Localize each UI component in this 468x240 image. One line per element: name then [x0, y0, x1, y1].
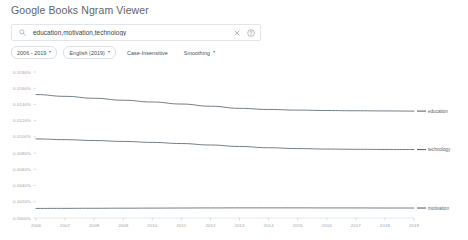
chip-date-range[interactable]: 2006 - 2019 ▾: [11, 46, 57, 59]
y-tick-label: 0.0080%: [13, 151, 31, 156]
x-tick-label: 2013: [234, 223, 245, 228]
y-tick-label: 0.0140%: [13, 102, 31, 107]
x-tick-label: 2006: [31, 223, 42, 228]
y-tick-label: 0.0040%: [13, 183, 31, 188]
series-line-technology[interactable]: [36, 139, 414, 150]
x-axis: 2006200720082009201020112012201320142015…: [31, 218, 420, 228]
chip-date-range-label: 2006 - 2019: [17, 50, 46, 56]
x-tick-label: 2016: [322, 223, 333, 228]
x-tick-label: 2009: [118, 223, 129, 228]
ngram-viewer-app: Google Books Ngram Viewer 200: [0, 0, 468, 240]
x-tick-label: 2014: [264, 223, 275, 228]
x-tick-label: 2011: [176, 223, 186, 228]
chip-smoothing[interactable]: Smoothing ▾: [179, 46, 220, 59]
search-icon: [15, 29, 29, 36]
x-tick-label: 2007: [60, 223, 71, 228]
series-label-education[interactable]: education: [428, 109, 448, 114]
chip-smoothing-label: Smoothing: [184, 50, 210, 56]
series-line-motivation[interactable]: [36, 208, 414, 209]
y-tick-label: 0.0120%: [13, 118, 31, 123]
chevron-down-icon: ▾: [49, 50, 51, 54]
x-tick-label: 2008: [89, 223, 100, 228]
series-line-education[interactable]: [36, 95, 414, 112]
y-tick-label: 0.0180%: [13, 70, 31, 75]
chevron-down-icon: ▾: [213, 50, 215, 54]
plot-lines: [36, 95, 414, 209]
y-tick-label: 0.0060%: [13, 167, 31, 172]
series-legend: educationtechnologymotivation: [417, 109, 451, 211]
search-bar[interactable]: [11, 24, 261, 41]
chart-svg: 0.0000%0.0020%0.0040%0.0060%0.0080%0.010…: [0, 66, 468, 240]
filter-chip-row: 2006 - 2019 ▾ English (2019) ▾ Case-Inse…: [11, 46, 220, 59]
search-input[interactable]: [29, 25, 230, 40]
series-label-technology[interactable]: technology: [428, 147, 451, 152]
chip-case-insensitive-label: Case-Insensitive: [127, 50, 168, 56]
y-axis: 0.0000%0.0020%0.0040%0.0060%0.0080%0.010…: [13, 70, 36, 221]
ngram-chart[interactable]: 0.0000%0.0020%0.0040%0.0060%0.0080%0.010…: [0, 66, 468, 240]
chip-case-insensitive[interactable]: Case-Insensitive: [122, 46, 173, 59]
y-tick-label: 0.0160%: [13, 86, 31, 91]
x-tick-label: 2019: [409, 223, 420, 228]
chevron-down-icon: ▾: [108, 50, 110, 54]
close-icon[interactable]: [230, 30, 243, 36]
series-label-motivation[interactable]: motivation: [428, 206, 449, 211]
y-tick-label: 0.0100%: [13, 134, 31, 139]
x-tick-label: 2018: [380, 223, 391, 228]
x-tick-label: 2017: [351, 223, 362, 228]
x-tick-label: 2012: [205, 223, 216, 228]
app-header: Google Books Ngram Viewer: [0, 0, 468, 20]
chip-corpus-label: English (2019): [69, 50, 105, 56]
y-tick-label: 0.0000%: [13, 216, 31, 221]
chip-corpus[interactable]: English (2019) ▾: [63, 46, 116, 59]
x-tick-label: 2010: [147, 223, 158, 228]
question-mark-icon[interactable]: [243, 29, 259, 37]
x-tick-label: 2015: [293, 223, 304, 228]
page-title: Google Books Ngram Viewer: [11, 4, 149, 16]
y-tick-label: 0.0020%: [13, 199, 31, 204]
